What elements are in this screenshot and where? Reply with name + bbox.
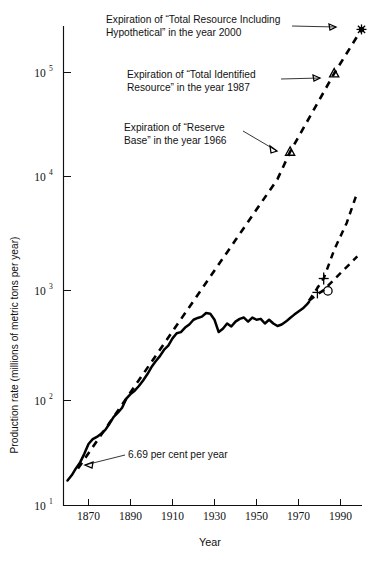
axes-group — [64, 26, 363, 506]
y-tick-label-1e4-exponent: 4 — [49, 168, 53, 177]
annotation-total-identified-resource: Expiration of “Total Identified Resource… — [127, 69, 256, 93]
annotation-growth-rate-line1: 6.69 per cent per year — [128, 449, 228, 460]
y-tick-label-1e4-mantissa: 10 — [34, 171, 46, 183]
x-axis-tick-labels: 1870 1890 1910 1930 1950 1970 1990 — [77, 510, 352, 522]
x-axis-title: Year — [199, 536, 221, 548]
leader-line-growth-rate — [85, 455, 125, 465]
y-tick-label-1e1-exponent: 1 — [49, 497, 53, 506]
arrowhead-reserve-base — [270, 146, 277, 153]
star-marker-total-resource-hypothetical — [357, 24, 367, 34]
y-tick-label-1e3-mantissa: 10 — [34, 285, 46, 297]
x-tick-label-1870: 1870 — [77, 510, 100, 522]
annotation-growth-rate: 6.69 per cent per year — [128, 449, 228, 460]
y-axis-tick-labels: 10 5 10 4 10 3 10 2 10 1 — [34, 64, 53, 512]
x-tick-label-1930: 1930 — [203, 510, 226, 522]
annotation-reserve-base-line2: Base” in the year 1966 — [124, 135, 227, 146]
annotation-reserve-base-line1: Expiration of “Reserve — [124, 122, 225, 133]
y-tick-label-1e2-mantissa: 10 — [34, 395, 46, 407]
y-tick-label-1e5-exponent: 5 — [49, 64, 53, 73]
annotation-total-resource-hypothetical: Expiration of “Total Resource Including … — [106, 14, 281, 38]
y-tick-label-1e5-mantissa: 10 — [34, 67, 46, 79]
y-axis-ticks — [64, 73, 72, 506]
data-markers — [286, 24, 367, 298]
exponential-projection-line — [78, 29, 362, 468]
annotation-total-identified-resource-line1: Expiration of “Total Identified — [127, 69, 256, 80]
x-tick-label-1990: 1990 — [329, 510, 352, 522]
cross-marker-upper-projection — [319, 273, 329, 285]
x-tick-label-1970: 1970 — [287, 510, 310, 522]
upper-alternate-projection-line — [309, 192, 357, 300]
production-rate-log-chart: 10 5 10 4 10 3 10 2 10 1 1870 1890 1910 … — [0, 0, 377, 580]
arrowhead-growth-rate — [85, 462, 93, 468]
circle-marker-lower-projection — [324, 287, 332, 295]
y-axis-title: Production rate (millions of metric tons… — [9, 237, 20, 454]
annotation-reserve-base: Expiration of “Reserve Base” in the year… — [124, 122, 227, 146]
annotation-total-resource-hypothetical-line1: Expiration of “Total Resource Including — [106, 14, 281, 25]
lower-alternate-projection-line — [309, 256, 357, 300]
x-axis-ticks — [89, 499, 341, 506]
x-tick-label-1950: 1950 — [245, 510, 268, 522]
y-tick-label-1e3-exponent: 3 — [49, 282, 53, 291]
annotation-total-identified-resource-line2: Resource” in the year 1987 — [127, 82, 250, 93]
chart-svg: 10 5 10 4 10 3 10 2 10 1 1870 1890 1910 … — [0, 0, 377, 580]
annotation-total-resource-hypothetical-line2: Hypothetical” in the year 2000 — [106, 27, 242, 38]
x-tick-label-1910: 1910 — [161, 510, 184, 522]
y-tick-label-1e1-mantissa: 10 — [34, 500, 46, 512]
x-tick-label-1890: 1890 — [119, 510, 142, 522]
y-tick-label-1e2-exponent: 2 — [49, 392, 53, 401]
